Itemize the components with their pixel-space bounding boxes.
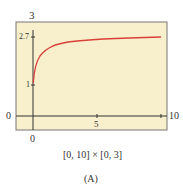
- figure-caption: (A): [84, 174, 98, 184]
- x-tick-label-0: 0: [30, 134, 35, 144]
- plot-frame: [16, 22, 167, 130]
- y-tick-label-1: 1: [26, 80, 30, 90]
- window-label: [0, 10] × [0, 3]: [63, 150, 122, 160]
- y-tick-label-0: 0: [6, 111, 11, 121]
- y-max-label: 3: [29, 10, 35, 20]
- y-tick-label-2.7: 2.7: [19, 32, 29, 42]
- x-tick-label-10: 10: [169, 111, 179, 121]
- chart-plot: [0, 0, 183, 194]
- x-tick-label-5: 5: [94, 119, 99, 129]
